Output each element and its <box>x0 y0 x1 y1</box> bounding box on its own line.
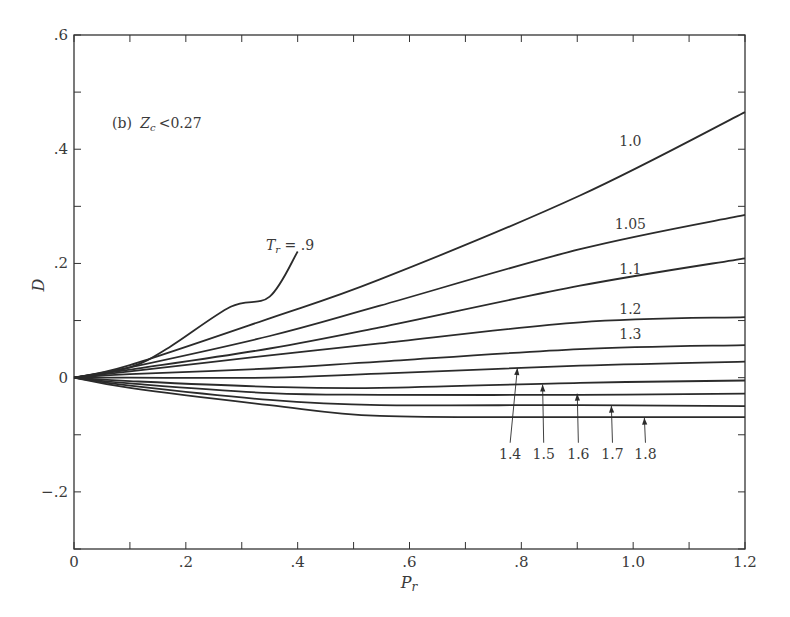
curve-tr-0-9 <box>74 252 298 378</box>
annotation-var: Z <box>139 115 150 131</box>
arrow-label: 1.8 <box>634 446 656 462</box>
arrowhead-icon <box>540 385 545 392</box>
x-axis-title: Pr <box>400 573 419 594</box>
y-tick-label: 0 <box>58 369 68 387</box>
x-tick-label: 1.0 <box>621 553 645 571</box>
chart: 0.2.4.6.81.01.2 .6.4.20−.2 1.01.051.11.2… <box>0 0 790 617</box>
annotation-sub: c <box>150 122 156 133</box>
arrowhead-icon <box>642 418 647 425</box>
arrowhead-icon <box>609 406 614 413</box>
arrow-line <box>577 394 578 443</box>
x-tick-label: .4 <box>291 553 305 571</box>
x-tick-label: 0 <box>69 553 79 571</box>
arrow-label: 1.4 <box>499 446 521 462</box>
curve-tr-1-0 <box>74 112 745 378</box>
curve-label: 1.3 <box>619 326 641 342</box>
y-axis-title: D <box>29 278 48 292</box>
curve-label-tr-0-9: Tr = .9 <box>266 237 314 255</box>
y-tick-label: .4 <box>54 140 68 158</box>
plot-frame <box>74 35 745 549</box>
x-tick-label: .8 <box>514 553 528 571</box>
curve-tr-1-05 <box>74 215 745 378</box>
curve-label: 1.05 <box>615 216 646 232</box>
curve-tr-1-6 <box>74 378 745 395</box>
arrow-label: 1.5 <box>533 446 555 462</box>
x-tick-label: .6 <box>402 553 416 571</box>
x-tick-label: .2 <box>179 553 193 571</box>
curves <box>74 112 745 417</box>
arrow-label: 1.6 <box>567 446 589 462</box>
annotation-rel: <0.27 <box>159 115 202 131</box>
arrow-line <box>543 385 544 443</box>
y-axis-ticks: .6.4.20−.2 <box>41 26 745 549</box>
curve-label: 1.1 <box>619 261 641 277</box>
arrow-label: 1.7 <box>601 446 623 462</box>
y-tick-label: .2 <box>54 254 68 272</box>
curve-tr-1-4 <box>74 362 745 378</box>
curve-label: 1.0 <box>619 133 641 149</box>
curve-label: 1.2 <box>619 301 641 317</box>
annotation-prefix: (b) <box>112 115 132 131</box>
y-tick-label: .6 <box>54 26 68 44</box>
x-tick-label: 1.2 <box>733 553 757 571</box>
y-tick-label: −.2 <box>41 483 68 501</box>
chart-annotation: (b) Zc<0.27 <box>112 115 202 133</box>
plot-border <box>74 35 745 549</box>
